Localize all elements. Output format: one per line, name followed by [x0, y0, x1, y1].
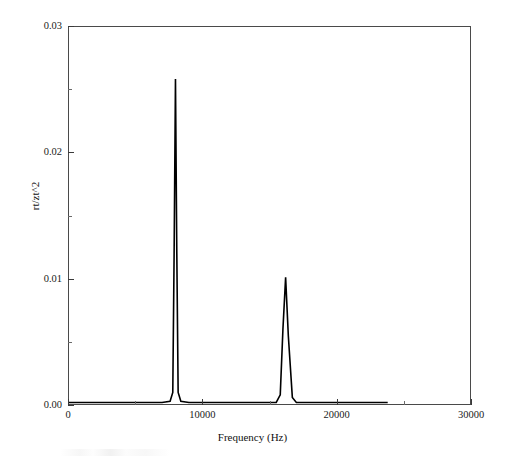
x-tick-mark [68, 399, 69, 405]
x-tick-mark [337, 399, 338, 405]
x-tick-label: 30000 [458, 410, 484, 421]
x-minor-tick-mark [404, 401, 405, 405]
x-tick-mark [202, 399, 203, 405]
x-minor-tick-mark [135, 401, 136, 405]
y-tick-mark [68, 26, 74, 27]
y-tick-label: 0.01 [44, 273, 62, 284]
data-plot-area [68, 26, 471, 405]
x-minor-tick-mark [270, 401, 271, 405]
y-tick-mark [68, 152, 74, 153]
y-axis-title: rt/zt^2 [29, 156, 41, 236]
series-line-spectrum [68, 79, 388, 402]
y-minor-tick-mark [68, 342, 72, 343]
y-tick-label: 0.00 [44, 400, 62, 411]
x-tick-mark [471, 399, 472, 405]
x-axis-title: Frequency (Hz) [0, 431, 505, 443]
x-tick-label: 20000 [324, 410, 350, 421]
y-tick-label: 0.03 [44, 21, 62, 32]
y-tick-mark [68, 279, 74, 280]
x-tick-label: 10000 [189, 410, 215, 421]
figure-canvas: 0.000.010.020.03 0100002000030000 Freque… [0, 0, 505, 459]
y-tick-mark [68, 405, 74, 406]
y-tick-label: 0.02 [44, 147, 62, 158]
y-minor-tick-mark [68, 89, 72, 90]
x-tick-label: 0 [65, 410, 70, 421]
y-minor-tick-mark [68, 216, 72, 217]
page-edge-artifact [60, 449, 170, 456]
